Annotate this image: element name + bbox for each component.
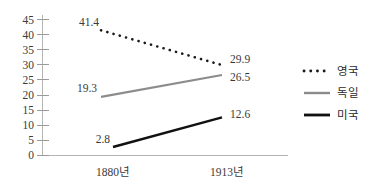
- data-label-germany-1913: 26.5: [230, 71, 250, 83]
- data-label-uk-1913: 29.9: [230, 53, 250, 65]
- chart-legend: 영국 독일 미국: [304, 65, 359, 121]
- y-tick-label: 20: [23, 89, 35, 101]
- legend-label-uk: 영국: [337, 65, 359, 77]
- legend-label-germany: 독일: [337, 86, 359, 99]
- data-label-germany-1880: 19.3: [77, 82, 97, 94]
- y-axis-tick-labels: 45 40 35 30 25 20 15 10 5 0: [23, 14, 35, 162]
- y-tick-label: 0: [28, 149, 34, 161]
- series-line-uk: [101, 30, 222, 65]
- y-tick-label: 5: [28, 134, 34, 146]
- legend-item-usa[interactable]: 미국: [304, 109, 359, 121]
- legend-label-usa: 미국: [337, 109, 359, 121]
- data-point-labels: 41.4 29.9 19.3 26.5 2.8 12.6: [77, 16, 251, 145]
- data-label-uk-1880: 41.4: [79, 16, 99, 28]
- x-tick-label-1913: 1913년: [210, 166, 244, 178]
- y-tick-label: 35: [23, 44, 35, 56]
- x-axis-tick-labels: 1880년 1913년: [96, 166, 244, 178]
- y-tick-label: 10: [23, 119, 35, 131]
- data-label-usa-1880: 2.8: [96, 133, 111, 145]
- series-line-germany: [101, 75, 222, 97]
- data-label-usa-1913: 12.6: [230, 108, 250, 120]
- y-tick-label: 30: [23, 59, 35, 71]
- line-chart: 45 40 35 30 25 20 15 10 5 0 1880년 1913년 …: [0, 0, 367, 190]
- y-tick-label: 25: [23, 74, 35, 86]
- y-tick-label: 45: [23, 14, 35, 26]
- y-tick-label: 15: [23, 104, 35, 116]
- y-tick-label: 40: [23, 29, 35, 41]
- chart-canvas: 45 40 35 30 25 20 15 10 5 0 1880년 1913년 …: [0, 0, 367, 190]
- legend-item-germany[interactable]: 독일: [304, 86, 359, 99]
- x-tick-label-1880: 1880년: [96, 166, 130, 178]
- series-line-usa: [113, 117, 222, 147]
- legend-item-uk[interactable]: 영국: [304, 65, 359, 77]
